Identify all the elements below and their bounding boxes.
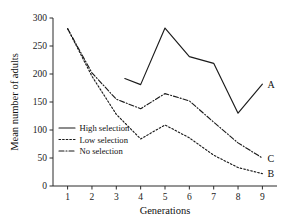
curve-label-c: C: [267, 153, 274, 164]
y-tick-label: 50: [38, 153, 48, 163]
y-axis-tick-labels: 050100150200250300: [33, 13, 48, 191]
y-tick-label: 0: [42, 181, 47, 191]
y-tick-label: 250: [33, 41, 48, 51]
x-tick-label: 7: [211, 192, 216, 202]
curve-label-b: B: [267, 168, 274, 179]
x-axis-ticks: [68, 186, 263, 190]
x-tick-label: 1: [65, 192, 70, 202]
legend-label: High selection: [80, 123, 131, 133]
x-tick-label: 2: [90, 192, 95, 202]
axis-lines: [53, 18, 277, 186]
curve-end-labels: ACB: [267, 79, 275, 180]
line-chart: 050100150200250300 123456789 ACB Generat…: [0, 0, 299, 223]
y-tick-label: 150: [33, 97, 48, 107]
chart-figure: 050100150200250300 123456789 ACB Generat…: [0, 0, 299, 223]
y-tick-label: 100: [33, 125, 48, 135]
y-axis-ticks: [50, 18, 54, 186]
x-tick-label: 8: [236, 192, 241, 202]
legend-label: Low selection: [80, 135, 129, 145]
x-tick-label: 3: [114, 192, 119, 202]
y-tick-label: 200: [33, 69, 48, 79]
legend-label: No selection: [80, 146, 124, 156]
x-tick-label: 6: [187, 192, 192, 202]
x-tick-label: 4: [138, 192, 143, 202]
x-axis-title: Generations: [140, 205, 191, 216]
y-tick-label: 300: [33, 13, 48, 23]
y-axis-title: Mean number of adults: [9, 53, 20, 151]
x-tick-label: 5: [163, 192, 168, 202]
x-axis-tick-labels: 123456789: [65, 192, 265, 202]
x-tick-label: 9: [260, 192, 265, 202]
curve-label-a: A: [267, 79, 275, 90]
series-line-a: [125, 28, 263, 113]
legend: High selectionLow selectionNo selection: [59, 123, 130, 156]
